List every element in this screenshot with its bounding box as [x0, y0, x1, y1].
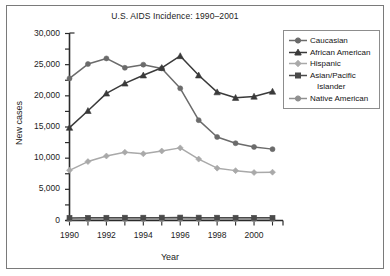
series-marker-caucasian	[178, 86, 183, 91]
series-line-african-american	[70, 56, 273, 128]
series-marker-hispanic	[103, 153, 109, 159]
series-line-caucasian	[70, 58, 273, 149]
series-marker-caucasian	[215, 134, 220, 139]
series-marker-hispanic	[67, 167, 73, 173]
y-tick-label: 0	[8, 215, 60, 225]
x-tick-label: 2000	[234, 230, 274, 240]
legend-marker-circle-icon	[287, 35, 309, 46]
series-marker-asian-pacific-islander	[67, 215, 72, 220]
series-marker-hispanic	[122, 149, 128, 155]
y-tick-label: 15,000	[8, 121, 60, 131]
legend-item-continuation: Islander	[287, 81, 376, 93]
series-marker-hispanic	[85, 159, 91, 165]
series-marker-asian-pacific-islander	[233, 215, 238, 220]
legend-label: African American	[309, 47, 370, 58]
series-marker-asian-pacific-islander	[159, 215, 164, 220]
x-tick-label: 1994	[123, 230, 163, 240]
series-marker-caucasian	[196, 118, 201, 123]
series-marker-caucasian	[85, 62, 90, 67]
chart-figure: U.S. AIDS Incidence: 1990–2001 New cases…	[0, 0, 390, 276]
legend-label-continuation: Islander	[287, 81, 345, 92]
series-marker-asian-pacific-islander	[104, 215, 109, 220]
y-tick-label: 5,000	[8, 183, 60, 193]
legend-item: Caucasian	[287, 35, 376, 47]
x-tick-label: 1992	[86, 230, 126, 240]
legend-marker-circle-icon	[287, 93, 309, 104]
legend-item: Hispanic	[287, 58, 376, 70]
y-tick-label: 10,000	[8, 152, 60, 162]
legend-label: Native American	[309, 93, 368, 104]
legend-marker-square-icon	[287, 70, 309, 81]
series-marker-asian-pacific-islander	[196, 215, 201, 220]
series-marker-african-american	[103, 90, 109, 96]
series-marker-hispanic	[270, 169, 276, 175]
series-marker-caucasian	[252, 144, 257, 149]
series-marker-asian-pacific-islander	[141, 215, 146, 220]
series-marker-caucasian	[122, 65, 127, 70]
series-marker-asian-pacific-islander	[85, 215, 90, 220]
series-marker-caucasian	[233, 141, 238, 146]
series-line-hispanic	[70, 148, 273, 173]
legend-marker-triangle-icon	[287, 47, 309, 58]
series-marker-caucasian	[67, 76, 72, 81]
x-axis-label: Year	[120, 252, 220, 262]
legend-item: Native American	[287, 93, 376, 105]
series-marker-caucasian	[141, 62, 146, 67]
series-marker-asian-pacific-islander	[178, 215, 183, 220]
series-marker-hispanic	[233, 168, 239, 174]
legend-marker-diamond-icon	[287, 58, 309, 69]
y-tick-label: 30,000	[8, 28, 60, 38]
x-tick-label: 1990	[50, 230, 90, 240]
series-marker-asian-pacific-islander	[270, 215, 275, 220]
series-marker-caucasian	[104, 56, 109, 61]
series-marker-asian-pacific-islander	[215, 215, 220, 220]
legend-label: Caucasian	[309, 35, 348, 46]
series-marker-hispanic	[140, 151, 146, 157]
y-tick-label: 20,000	[8, 90, 60, 100]
x-tick-label: 1998	[197, 230, 237, 240]
series-marker-hispanic	[159, 148, 165, 154]
series-marker-caucasian	[270, 147, 275, 152]
series-marker-african-american	[269, 88, 275, 94]
series-marker-hispanic	[214, 165, 220, 171]
series-marker-asian-pacific-islander	[252, 215, 257, 220]
legend-item: African American	[287, 47, 376, 59]
y-tick-label: 25,000	[8, 59, 60, 69]
legend-item: Asian/Pacific	[287, 70, 376, 82]
legend-label: Asian/Pacific	[309, 70, 356, 81]
legend-label: Hispanic	[309, 58, 341, 69]
series-marker-hispanic	[251, 170, 257, 176]
series-marker-african-american	[177, 53, 183, 59]
chart-legend: CaucasianAfrican AmericanHispanicAsian/P…	[283, 30, 380, 109]
x-tick-label: 1996	[160, 230, 200, 240]
series-marker-asian-pacific-islander	[122, 215, 127, 220]
